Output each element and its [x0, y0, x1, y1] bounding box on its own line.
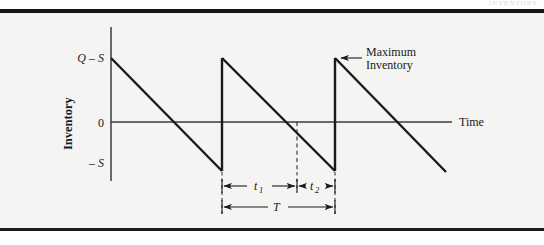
- y-tick-label-minus-s: – S: [88, 156, 104, 170]
- t1-label-subscript: 1: [259, 185, 263, 195]
- t1-label: t: [254, 179, 258, 193]
- t2-label: t: [310, 179, 314, 193]
- y-axis-title: Inventory: [61, 96, 75, 150]
- period-dimension-group: T: [222, 200, 335, 214]
- t2-dimension-group: t 2: [299, 179, 335, 195]
- y-tick-label-q-minus-s: Q – S: [77, 51, 104, 65]
- t1-dimension-group: t 1: [222, 179, 297, 195]
- axis-titles-group: Inventory Time: [61, 96, 484, 150]
- figure-container: INVENTORY: [0, 0, 544, 245]
- maximum-inventory-label-line2: Inventory: [366, 58, 413, 72]
- t2-label-subscript: 2: [315, 185, 320, 195]
- period-label: T: [273, 200, 281, 214]
- inventory-curve-segment-2: [222, 58, 335, 171]
- maximum-inventory-label-line1: Maximum: [366, 45, 417, 59]
- x-axis-label: Time: [459, 115, 484, 129]
- inventory-curve-segment-1: [111, 58, 222, 171]
- inventory-curve-group: [111, 58, 446, 172]
- inventory-curve-segment-3: [335, 58, 446, 172]
- inventory-time-chart: Q – S 0 – S Inventory Time Maximum Inven…: [0, 0, 544, 245]
- y-tick-label-zero: 0: [98, 116, 104, 130]
- maximum-inventory-annotation: Maximum Inventory: [341, 45, 417, 72]
- y-axis-tick-labels: Q – S 0 – S: [77, 51, 104, 170]
